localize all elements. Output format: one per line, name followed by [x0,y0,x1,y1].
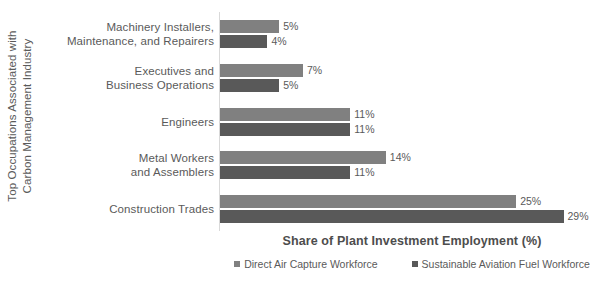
category-label-line: Engineers [40,115,214,129]
legend-item-0[interactable]: Direct Air Capture Workforce [234,258,377,270]
bar-value-label: 11% [354,166,374,179]
category-label: Construction Trades [40,202,214,216]
category-label-line: Machinery Installers, [40,20,214,34]
category-axis: Machinery Installers,Maintenance, and Re… [40,12,214,231]
plot-area: 5%4%7%5%11%11%14%11%25%29% [219,12,605,231]
legend-label: Direct Air Capture Workforce [244,258,377,270]
chart-legend: Direct Air Capture WorkforceSustainable … [219,258,605,270]
category-label-line: Business Operations [40,78,214,92]
bar-value-label: 4% [271,35,286,48]
bar-value-label: 11% [354,123,374,136]
legend-item-1[interactable]: Sustainable Aviation Fuel Workforce [412,258,590,270]
category-label-line: Executives and [40,64,214,78]
bar-0-0 [220,20,279,33]
bar-0-3 [220,151,386,164]
bar-1-4 [220,210,564,223]
bar-value-label: 5% [283,20,298,33]
bar-1-1 [220,79,279,92]
category-label: Engineers [40,115,214,129]
legend-swatch-icon [412,261,418,267]
legend-swatch-icon [234,261,240,267]
bar-value-label: 7% [307,64,322,77]
category-label-line: and Assemblers [40,165,214,179]
category-label: Machinery Installers,Maintenance, and Re… [40,20,214,48]
category-label: Metal Workersand Assemblers [40,151,214,179]
y-axis-title-line-1: Top Occupations Associated with [5,30,20,201]
bar-0-1 [220,64,303,77]
bar-0-4 [220,195,516,208]
category-label-line: Construction Trades [40,202,214,216]
bar-1-0 [220,35,267,48]
bar-chart: Top Occupations Associated with Carbon M… [0,0,605,282]
category-label: Executives andBusiness Operations [40,64,214,92]
category-label-line: Metal Workers [40,151,214,165]
bar-value-label: 25% [520,195,541,208]
x-axis-title: Share of Plant Investment Employment (%) [219,234,605,248]
bar-1-2 [220,123,350,136]
y-axis-title-line-2: Carbon Management Industry [20,39,35,194]
category-label-line: Maintenance, and Repairers [40,34,214,48]
bar-value-label: 5% [283,79,298,92]
legend-label: Sustainable Aviation Fuel Workforce [422,258,590,270]
bar-value-label: 29% [568,210,589,223]
bar-value-label: 14% [390,151,411,164]
bar-value-label: 11% [354,108,374,121]
y-axis-title: Top Occupations Associated with Carbon M… [2,0,38,232]
bar-0-2 [220,108,350,121]
bar-1-3 [220,166,350,179]
